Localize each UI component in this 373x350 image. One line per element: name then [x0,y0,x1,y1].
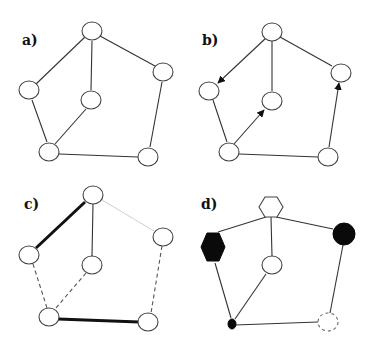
node-middle [262,92,282,110]
node-bottom-left [219,143,239,161]
node-middle [81,91,101,109]
node-left [19,81,39,99]
node-bottom-right [138,148,158,166]
edge-top-left [218,217,266,232]
node-bottom-right [318,148,338,166]
edge-right-bottomright [330,245,343,313]
nodes-c [19,186,173,331]
dashed-edge-left-bottomleft [33,264,47,308]
edge-left-bottomleft [215,263,231,318]
edge-top-middle [92,204,93,256]
edge-top-right [100,36,155,66]
node-middle [82,256,102,274]
graph-figure: a) b) [0,0,373,350]
edge-bottomleft-bottomright [235,322,318,325]
node-right [331,64,351,82]
edge-bottomleft-bottomright [239,154,318,157]
node-top-white-hexagon [259,197,283,217]
edge-bottomleft-bottomright [59,154,138,157]
faint-edge-top-right [102,200,154,231]
edge-top-left [36,36,86,84]
edge-right-bottomright [150,82,162,147]
node-left [19,246,39,264]
edge-top-middle [271,217,272,256]
node-bottom-left [39,308,59,326]
node-bottom-left [39,143,59,161]
nodes-b [199,23,351,166]
dashed-edge-middle-bottomleft [55,273,86,309]
node-top [82,22,102,40]
panel-label-c: c) [24,196,39,212]
panel-b: b) [199,23,351,166]
panel-d: d) [201,196,355,331]
node-bottom-right-dashed-circle [318,313,338,331]
node-right-black-circle [333,223,355,245]
bold-edge-bottomleft-bottomright [58,319,139,322]
edge-middle-bottomleft [55,109,86,144]
node-top [262,23,282,41]
arrow-top-to-left [218,38,266,83]
nodes-a [19,22,173,166]
panel-label-b: b) [202,32,218,48]
dashed-edge-right-bottomright [151,246,162,313]
node-left [199,82,219,100]
edge-left-bottomleft [213,100,227,142]
node-bottom-left-small-black [228,319,236,329]
edge-left-bottomleft [32,100,47,142]
node-middle-white-circle [262,256,282,274]
node-right [153,228,173,246]
panel-a: a) [19,22,173,166]
edge-middle-bottomleft [235,274,266,319]
panel-label-a: a) [22,32,38,48]
arrow-bottomright-to-right [329,83,339,147]
edge-top-right [276,217,333,229]
edge-top-right [280,37,332,66]
node-left-black-hexagon [201,233,225,261]
node-right [153,63,173,81]
panel-c: c) [19,186,173,331]
panel-label-d: d) [201,196,217,212]
node-top [83,186,103,204]
bold-edge-top-left [36,202,85,248]
node-bottom-right [138,313,158,331]
edge-top-middle [91,41,92,90]
arrow-bottomleft-to-middle [234,110,264,144]
